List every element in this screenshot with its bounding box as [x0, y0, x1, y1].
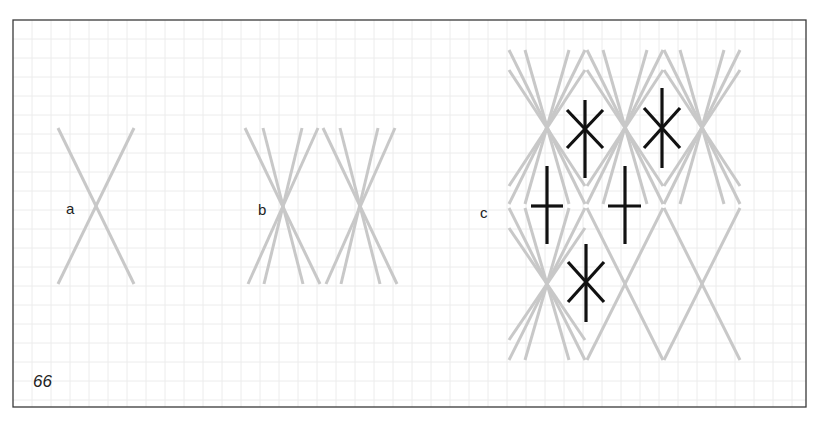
- star-stitch-bottom: [568, 244, 604, 322]
- panel-c-dark-stitches: [531, 88, 680, 322]
- cross-stitch-right: [608, 166, 641, 244]
- embroidery-stitch-diagram: a b: [0, 0, 815, 422]
- figure-number: 66: [33, 372, 52, 391]
- panel-label-a: a: [66, 200, 75, 217]
- panel-label-b: b: [258, 201, 266, 218]
- star-stitch-top-right: [644, 88, 680, 168]
- cross-stitch-left: [531, 166, 563, 244]
- panel-label-c: c: [480, 204, 488, 221]
